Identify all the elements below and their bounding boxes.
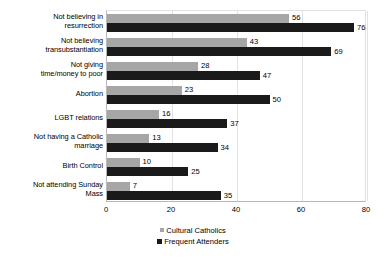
legend-swatch-black-icon bbox=[157, 239, 162, 244]
bar-cultural-catholics bbox=[107, 38, 247, 47]
bar-value-label: 16 bbox=[162, 109, 170, 118]
bar-value-label: 50 bbox=[273, 95, 281, 104]
category-label: Not having a Catholicmarriage bbox=[0, 133, 103, 150]
bar-frequent-attenders bbox=[107, 119, 227, 128]
bar-chart: Not believing inresurrectionNot believin… bbox=[0, 0, 386, 264]
category-label: Not believingtransubstantiation bbox=[0, 37, 103, 54]
legend-label: Frequent Attenders bbox=[164, 236, 229, 247]
bar-value-label: 69 bbox=[334, 47, 342, 56]
bar-value-label: 25 bbox=[191, 167, 199, 176]
bar-value-label: 43 bbox=[250, 37, 258, 46]
bar-value-label: 35 bbox=[224, 191, 232, 200]
chart-legend: Cultural CatholicsFrequent Attenders bbox=[0, 224, 386, 246]
x-tick-label: 40 bbox=[232, 205, 240, 214]
plot-area: 5676436928472350163713341025735 bbox=[106, 10, 366, 202]
bar-frequent-attenders bbox=[107, 23, 354, 32]
gridline-60 bbox=[302, 11, 303, 201]
category-label-line: Mass bbox=[0, 190, 103, 199]
bar-frequent-attenders bbox=[107, 71, 260, 80]
category-label-line: marriage bbox=[0, 142, 103, 151]
category-label-line: transubstantiation bbox=[0, 46, 103, 55]
bar-value-label: 28 bbox=[201, 61, 209, 70]
category-label-line: LGBT relations bbox=[0, 114, 103, 123]
legend-item[interactable]: Cultural Catholics bbox=[0, 224, 386, 235]
bar-value-label: 56 bbox=[292, 13, 300, 22]
bar-cultural-catholics bbox=[107, 62, 198, 71]
x-tick-label: 80 bbox=[362, 205, 370, 214]
category-label-line: Birth Control bbox=[0, 162, 103, 171]
bar-value-label: 76 bbox=[357, 23, 365, 32]
bar-cultural-catholics bbox=[107, 14, 289, 23]
bar-value-label: 34 bbox=[221, 143, 229, 152]
bar-cultural-catholics bbox=[107, 182, 130, 191]
category-label: Birth Control bbox=[0, 162, 103, 171]
category-label: Not believing inresurrection bbox=[0, 13, 103, 30]
bar-frequent-attenders bbox=[107, 191, 221, 200]
x-tick-label: 20 bbox=[167, 205, 175, 214]
category-label-line: time/money to poor bbox=[0, 70, 103, 79]
bar-cultural-catholics bbox=[107, 134, 149, 143]
bar-frequent-attenders bbox=[107, 143, 218, 152]
bar-frequent-attenders bbox=[107, 167, 188, 176]
category-label-line: Abortion bbox=[0, 90, 103, 99]
category-label: Abortion bbox=[0, 90, 103, 99]
legend-swatch-gray-icon bbox=[160, 228, 164, 232]
bar-frequent-attenders bbox=[107, 47, 331, 56]
bar-cultural-catholics bbox=[107, 158, 140, 167]
bar-value-label: 13 bbox=[152, 133, 160, 142]
bar-frequent-attenders bbox=[107, 95, 270, 104]
category-label: Not attending SundayMass bbox=[0, 181, 103, 198]
bar-value-label: 7 bbox=[133, 181, 137, 190]
bar-value-label: 23 bbox=[185, 85, 193, 94]
bar-value-label: 47 bbox=[263, 71, 271, 80]
gridline-80 bbox=[367, 11, 368, 201]
x-axis: 020406080 bbox=[106, 203, 366, 217]
x-tick-label: 0 bbox=[104, 205, 108, 214]
category-axis-labels: Not believing inresurrectionNot believin… bbox=[0, 10, 103, 202]
category-label-line: resurrection bbox=[0, 22, 103, 31]
category-label: LGBT relations bbox=[0, 114, 103, 123]
bar-cultural-catholics bbox=[107, 110, 159, 119]
bar-value-label: 10 bbox=[143, 157, 151, 166]
legend-item[interactable]: Frequent Attenders bbox=[0, 235, 386, 246]
bar-value-label: 37 bbox=[230, 119, 238, 128]
category-label: Not givingtime/money to poor bbox=[0, 61, 103, 78]
x-tick-label: 60 bbox=[297, 205, 305, 214]
bar-cultural-catholics bbox=[107, 86, 182, 95]
